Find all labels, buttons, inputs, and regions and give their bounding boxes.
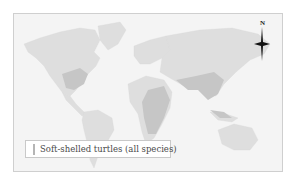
compass-rose-icon — [254, 27, 270, 61]
compass-north-label: N — [260, 19, 265, 27]
legend-swatch — [33, 144, 35, 155]
map-legend: Soft-shelled turtles (all species) — [25, 140, 171, 158]
legend-label: Soft-shelled turtles (all species) — [40, 144, 177, 154]
